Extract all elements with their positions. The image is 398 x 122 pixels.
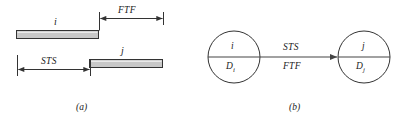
panel-a-group <box>17 12 164 76</box>
node-i-top-label: i <box>231 42 234 52</box>
node-j-duration-subscript: j <box>363 66 365 74</box>
figure-container: i j FTF STS (a) i Di j Dj STS FTF (b) <box>0 0 398 122</box>
figure-vector-layer <box>0 0 398 122</box>
panel-a-caption: (a) <box>76 103 87 113</box>
ftf-dimension-label: FTF <box>118 6 136 16</box>
node-i-duration-subscript: i <box>233 66 235 74</box>
panel-b-group <box>208 31 390 83</box>
node-j-top-label: j <box>362 42 365 52</box>
task-bar-i-label: i <box>54 17 57 27</box>
node-j-duration-base: D <box>356 61 363 71</box>
node-i-duration-base: D <box>226 61 233 71</box>
task-bar-j-label: j <box>121 46 124 56</box>
sts-dimension-label: STS <box>41 57 57 67</box>
node-i-duration-label: Di <box>226 62 235 74</box>
node-j-duration-label: Dj <box>356 62 365 74</box>
arrow-label-ftf: FTF <box>283 62 301 72</box>
arrow-label-sts: STS <box>283 43 299 53</box>
panel-b-caption: (b) <box>289 103 300 113</box>
